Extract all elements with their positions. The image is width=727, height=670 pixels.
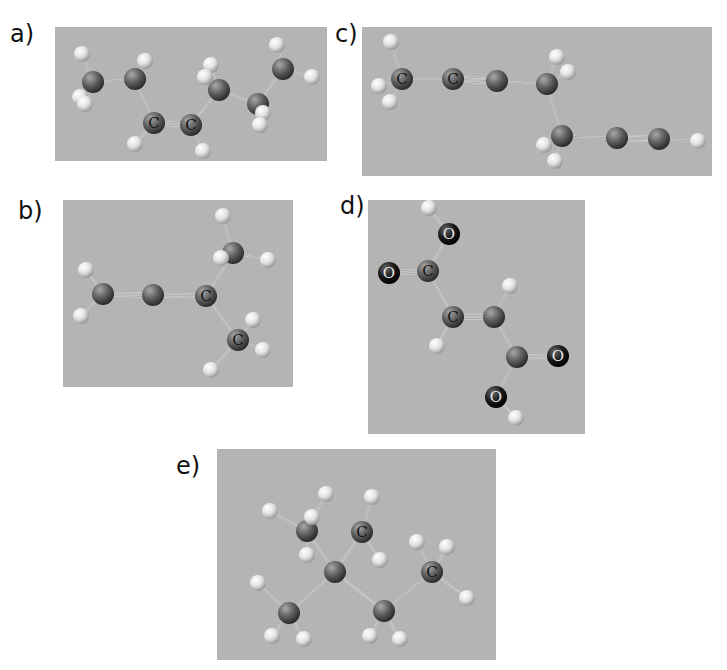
atoms: CC [72,37,320,159]
carbon-atom: C [417,260,439,282]
hydrogen-atom [252,117,268,133]
carbon-atom: C [442,68,464,90]
hydrogen-atom [409,534,425,550]
carbon-atom [486,70,508,92]
hydrogen-atom [269,37,285,53]
hydrogen-atom [439,539,455,555]
hydrogen-atom [197,69,213,85]
carbon-atom: C [195,285,217,307]
panel-label-b: b) [18,197,43,225]
hydrogen-atom [690,133,706,149]
hydrogen-atom [549,49,565,65]
oxygen-atom: O [485,386,507,408]
molecule-panel-a: CC [55,27,327,161]
oxygen-atom: O [378,262,400,284]
hydrogen-atom [362,628,378,644]
carbon-atom [536,73,558,95]
carbon-atom: C [143,112,165,134]
hydrogen-atom [77,96,93,112]
hydrogen-atom [195,143,211,159]
carbon-atom [208,79,230,101]
carbon-atom: C [391,68,413,90]
hydrogen-atom [429,338,445,354]
carbon-atom [278,602,300,624]
panel-label-d: d) [340,192,365,220]
atom-symbol: O [490,388,502,406]
carbon-atom [92,283,114,305]
hydrogen-atom [382,94,398,110]
hydrogen-atom [383,34,399,50]
atom-symbol: C [185,116,196,134]
hydrogen-atom [304,509,320,525]
carbon-atom: C [442,306,464,328]
hydrogen-atom [372,552,388,568]
hydrogen-atom [459,590,475,606]
oxygen-atom: O [438,223,460,245]
hydrogen-atom [502,278,518,294]
atoms: CC [250,486,475,647]
bonds [389,208,558,418]
hydrogen-atom [203,362,219,378]
hydrogen-atom [536,137,552,153]
carbon-atom [82,71,104,93]
hydrogen-atom [371,78,387,94]
atom-symbol: C [447,308,458,326]
hydrogen-atom [421,200,437,216]
hydrogen-atom [392,631,408,647]
panel-label-e: e) [176,452,200,480]
molecule-panel-d: OOCCOO [368,200,585,434]
hydrogen-atom [508,410,524,426]
hydrogen-atom [318,486,334,502]
hydrogen-atom [299,547,315,563]
hydrogen-atom [364,489,380,505]
atom-symbol: C [200,287,211,305]
atom-symbol: C [356,523,367,541]
molecule-panel-e: CC [217,449,496,660]
hydrogen-atom [78,262,94,278]
hydrogen-atom [296,631,312,647]
molecule-panel-c: CC [362,27,712,176]
atom-symbol: O [383,264,395,282]
hydrogen-atom [215,208,231,224]
atom-symbol: O [552,347,564,365]
hydrogen-atom [264,628,280,644]
carbon-atom [373,600,395,622]
hydrogen-atom [304,69,320,85]
atom-symbol: C [426,563,437,581]
carbon-atom [483,306,505,328]
hydrogen-atom [250,575,266,591]
hydrogen-atom [73,308,89,324]
hydrogen-atom [74,46,90,62]
hydrogen-atom [260,252,276,268]
hydrogen-atom [127,136,143,152]
atoms: CC [73,208,276,378]
atom-symbol: C [232,331,243,349]
carbon-atom: C [227,329,249,351]
atom-symbol: C [396,70,407,88]
atom-symbol: C [447,70,458,88]
carbon-atom [324,561,346,583]
hydrogen-atom [560,64,576,80]
hydrogen-atom [547,153,563,169]
panel-label-c: c) [335,20,358,48]
carbon-atom [142,284,164,306]
carbon-atom: C [421,561,443,583]
hydrogen-atom [213,250,229,266]
atom-symbol: O [443,225,455,243]
atoms: OOCCOO [378,200,569,426]
hydrogen-atom [255,342,271,358]
oxygen-atom: O [547,345,569,367]
carbon-atom [272,58,294,80]
carbon-atom: C [180,114,202,136]
panel-label-a: a) [10,20,34,48]
atom-symbol: C [422,262,433,280]
molecule-panel-b: CC [63,200,293,387]
hydrogen-atom [245,312,261,328]
hydrogen-atom [262,503,278,519]
atom-symbol: C [148,114,159,132]
carbon-atom [124,68,146,90]
atoms: CC [371,34,706,169]
carbon-atom [648,128,670,150]
carbon-atom: C [351,521,373,543]
carbon-atom [506,346,528,368]
